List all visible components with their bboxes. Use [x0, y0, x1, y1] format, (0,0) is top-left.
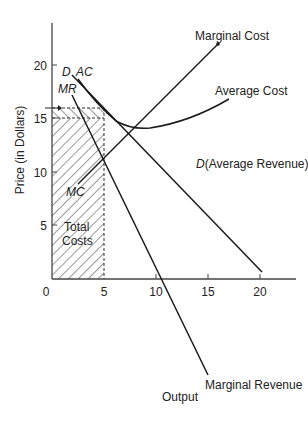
demand-suffix: (Average Revenue) — [205, 157, 308, 171]
mc-short-label: MC — [66, 185, 85, 199]
y-tick-10: 10 — [34, 166, 48, 180]
marginal-cost-label: Marginal Cost — [195, 29, 270, 43]
total-costs-label-1: Total — [64, 220, 89, 234]
d-short-label: D — [62, 65, 71, 79]
marginal-revenue-label: Marginal Revenue — [205, 378, 303, 392]
x-axis-label: Output — [162, 390, 199, 404]
total-costs-label-2: Costs — [62, 234, 93, 248]
x-tick-0: 0 — [43, 285, 50, 299]
mr-short-label: MR — [58, 82, 77, 96]
y-tick-20: 20 — [34, 59, 48, 73]
average-cost-label: Average Cost — [215, 84, 288, 98]
y-axis-label: Price (in Dollars) — [13, 106, 27, 195]
y-tick-5: 5 — [40, 219, 47, 233]
y-tick-15: 15 — [34, 112, 48, 126]
x-tick-10: 10 — [149, 285, 163, 299]
x-tick-20: 20 — [253, 285, 267, 299]
demand-prefix: D — [196, 157, 205, 171]
ac-short-label: AC — [75, 65, 93, 79]
x-tick-15: 15 — [201, 285, 215, 299]
price-output-chart: 20 15 10 5 0 5 10 15 20 Price (in Dollar… — [0, 0, 308, 421]
x-ticks — [156, 274, 260, 279]
demand-label: D(Average Revenue) — [196, 157, 308, 171]
x-tick-5: 5 — [101, 285, 108, 299]
